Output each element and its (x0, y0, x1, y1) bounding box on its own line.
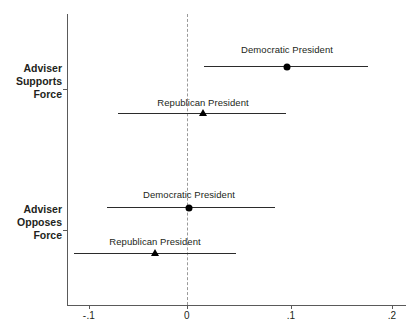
y-tick-mark-supports (63, 89, 68, 90)
y-axis-line (67, 14, 68, 306)
x-tick-label-0-1: .1 (287, 310, 296, 321)
group-label-adviser-opposes-force: Adviser Opposes Force (0, 203, 62, 242)
point-label-dem-opposes: Democratic President (143, 189, 235, 200)
x-tick-label-0-2: .2 (388, 310, 397, 321)
x-tick-label-neg-0-1: -.1 (83, 310, 95, 321)
coefficient-plot: -.1 0 .1 .2 Adviser Supports Force Democ… (0, 0, 407, 330)
x-axis-line (67, 305, 406, 306)
group-label-adviser-supports-force: Adviser Supports Force (0, 62, 62, 101)
marker-rep-opposes (151, 248, 159, 255)
y-tick-mark-opposes (63, 230, 68, 231)
x-tick-mark-0 (89, 305, 90, 309)
marker-rep-supports (199, 108, 207, 115)
marker-dem-supports (284, 63, 291, 70)
point-label-dem-supports: Democratic President (241, 44, 333, 55)
point-label-rep-opposes: Republican President (109, 236, 200, 247)
x-tick-mark-3 (392, 305, 393, 309)
x-tick-mark-1 (187, 305, 188, 309)
zero-reference-line (187, 14, 188, 305)
marker-dem-opposes (186, 204, 193, 211)
x-tick-label-0: 0 (184, 310, 190, 321)
x-tick-mark-2 (291, 305, 292, 309)
point-label-rep-supports: Republican President (157, 97, 248, 108)
